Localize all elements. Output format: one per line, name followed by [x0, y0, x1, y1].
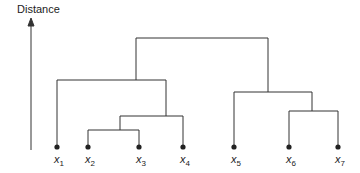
leaf-label-x1: x1 — [54, 153, 64, 168]
leaf-label-x3: x3 — [136, 153, 146, 168]
leaf-label-x5: x5 — [231, 153, 241, 168]
leaf-label-x6: x6 — [286, 153, 296, 168]
dendrogram — [0, 0, 360, 173]
dendrogram-links — [57, 38, 338, 147]
arrow-up-icon — [28, 18, 34, 26]
leaf-label-x4: x4 — [180, 153, 190, 168]
leaf-label-x7: x7 — [335, 153, 345, 168]
leaf-label-x2: x2 — [85, 153, 95, 168]
leaf-nodes — [54, 144, 340, 149]
distance-axis — [28, 18, 34, 150]
